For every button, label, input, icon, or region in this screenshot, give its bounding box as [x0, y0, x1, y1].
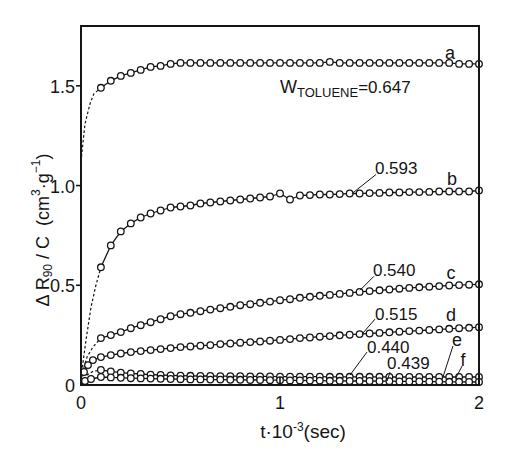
data-point: [297, 335, 304, 342]
data-point: [277, 60, 284, 67]
data-point: [356, 60, 363, 67]
data-point: [207, 199, 214, 206]
data-point: [396, 378, 403, 385]
data-point: [217, 60, 224, 67]
data-point: [346, 331, 353, 338]
data-point: [247, 60, 254, 67]
data-point: [187, 60, 194, 67]
data-point: [327, 292, 334, 299]
data-point: [436, 326, 443, 333]
data-point: [137, 348, 144, 355]
data-point: [327, 333, 334, 340]
data-point: [108, 78, 115, 85]
data-point: [336, 378, 343, 385]
data-point: [416, 327, 423, 334]
data-point: [88, 376, 95, 383]
data-point: [98, 374, 105, 381]
curve-label-a: a: [445, 43, 456, 63]
data-point: [217, 376, 224, 383]
data-point: [247, 339, 254, 346]
data-point: [167, 376, 174, 383]
data-point: [118, 73, 125, 80]
data-point: [128, 375, 135, 382]
data-point: [187, 343, 194, 350]
data-point: [307, 192, 314, 199]
data-point: [177, 203, 184, 210]
data-point: [147, 347, 154, 354]
chart: 0 0.5 1.0 1.5 0 1 2 t·10-3(sec) Δ R90 / …: [0, 0, 509, 464]
data-point: [376, 378, 383, 385]
data-point: [386, 378, 393, 385]
composition-label-c: 0.540: [373, 261, 416, 280]
leader-line: [443, 346, 453, 377]
data-point: [317, 377, 324, 384]
data-point: [98, 367, 105, 374]
data-point: [416, 189, 423, 196]
data-point: [466, 281, 473, 288]
data-point: [227, 197, 234, 204]
data-point: [197, 376, 204, 383]
data-point: [386, 286, 393, 293]
data-point: [237, 339, 244, 346]
data-point: [177, 311, 184, 318]
composition-annotation: WTOLUENE=0.647: [280, 77, 411, 100]
data-point: [98, 354, 105, 361]
data-point: [137, 214, 144, 221]
data-point: [147, 319, 154, 326]
curve-label-b: b: [447, 169, 457, 189]
data-point: [267, 377, 274, 384]
data-point: [297, 192, 304, 199]
data-point: [297, 60, 304, 67]
data-point: [346, 190, 353, 197]
data-point: [376, 190, 383, 197]
data-point: [297, 295, 304, 302]
data-point: [197, 308, 204, 315]
data-point: [187, 202, 194, 209]
curve-label-d: d: [446, 305, 456, 325]
data-point: [426, 189, 433, 196]
data-point: [128, 325, 135, 332]
data-point: [396, 60, 403, 67]
data-point: [406, 189, 413, 196]
data-point: [267, 337, 274, 344]
data-point: [118, 375, 125, 382]
data-point: [128, 70, 135, 77]
data-point: [307, 377, 314, 384]
data-point: [356, 289, 363, 296]
data-point: [317, 293, 324, 300]
data-point: [177, 60, 184, 67]
data-point: [157, 346, 164, 353]
data-point: [257, 300, 264, 307]
data-point: [227, 304, 234, 311]
data-point: [217, 305, 224, 312]
data-point: [108, 374, 115, 381]
data-point: [426, 378, 433, 385]
data-point: [147, 64, 154, 71]
data-point: [426, 60, 433, 67]
data-point: [277, 297, 284, 304]
data-point: [287, 377, 294, 384]
data-point: [267, 60, 274, 67]
x-tick-label: 1: [275, 393, 285, 413]
data-point: [406, 60, 413, 67]
data-point: [386, 189, 393, 196]
data-point: [227, 377, 234, 384]
data-point: [416, 378, 423, 385]
data-point: [167, 61, 174, 68]
data-point: [386, 60, 393, 67]
data-point: [396, 189, 403, 196]
data-point: [416, 284, 423, 291]
data-point: [287, 196, 294, 203]
data-point: [197, 200, 204, 207]
data-point: [128, 349, 135, 356]
data-point: [466, 188, 473, 195]
data-point: [257, 338, 264, 345]
composition-label-f: 0.439: [387, 354, 430, 373]
data-point: [406, 378, 413, 385]
data-point: [157, 63, 164, 70]
data-point: [118, 329, 125, 336]
data-point: [307, 294, 314, 301]
data-point: [346, 378, 353, 385]
data-point: [167, 345, 174, 352]
data-point: [247, 377, 254, 384]
